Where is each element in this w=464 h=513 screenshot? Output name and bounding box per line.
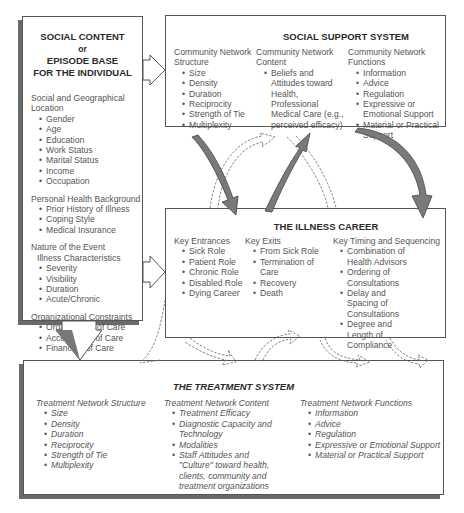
list-item: Income	[39, 166, 143, 176]
community-structure-column: Community Network Structure Size Density…	[174, 47, 254, 130]
list-item: Coping Style	[39, 214, 143, 224]
treatment-system-title: THE TREATMENT SYSTEM	[24, 381, 443, 393]
title-line: EPISODE BASE	[23, 55, 142, 67]
list-item: Duration	[39, 284, 143, 294]
list-item: Regulation	[308, 429, 445, 439]
list-item: Education	[39, 135, 143, 145]
list-item: Staff Attitudes and "Culture" toward hea…	[172, 450, 282, 492]
list-item: Material or Practical Support	[308, 450, 445, 460]
list-item: Disabled Role	[182, 278, 244, 288]
list-item: Modalities	[172, 440, 282, 450]
arrow-content-to-support-icon	[143, 55, 165, 85]
list-item: Duration	[44, 429, 166, 439]
list-item: Patient Role	[182, 257, 244, 267]
list-item: Marital Status	[39, 155, 143, 165]
list-item: Financing of Care	[39, 343, 143, 353]
section-heading: Personal Health Background	[31, 194, 143, 204]
list-item: Expressive or Emotional Support	[308, 440, 445, 450]
list-item: Delay and Spacing of Consultations	[340, 288, 418, 319]
section-heading: Nature of the Event	[31, 242, 143, 252]
list-item: Information	[356, 68, 444, 78]
key-exits-column: Key Exits From Sick Role Termination of …	[245, 236, 325, 298]
list-item: From Sick Role	[253, 246, 325, 256]
social-content-sections: Social and Geographical Location Gender …	[31, 93, 143, 360]
list-item: Information	[308, 408, 445, 418]
section-social-geographical: Social and Geographical Location Gender …	[31, 93, 143, 187]
social-support-title: SOCIAL SUPPORT SYSTEM	[246, 31, 446, 43]
list-item: Termination of Care	[253, 257, 325, 278]
list-item: Regulation	[356, 89, 444, 99]
column-heading: Community Network Content	[256, 47, 344, 68]
list-item: Strength of Tie	[182, 109, 254, 119]
list-item: Occupation	[39, 176, 143, 186]
column-heading: Key Timing and Sequencing	[333, 236, 445, 246]
column-heading: Treatment Network Structure	[36, 398, 166, 408]
list-item: Medical Insurance	[39, 225, 143, 235]
illness-career-title: THE ILLNESS CAREER	[226, 221, 426, 233]
list-item: Combination of Health Advisors	[340, 246, 418, 267]
list-item: Advice	[308, 419, 445, 429]
list-item: Density	[182, 78, 254, 88]
list-item: Sick Role	[182, 246, 244, 256]
arrow-support-to-illness-icon	[192, 135, 238, 215]
list-item: Accessibility of Care	[39, 333, 143, 343]
title-line: SOCIAL CONTENT	[23, 31, 142, 43]
list-item: Reciprocity	[182, 99, 254, 109]
column-heading: Community Network Functions	[348, 47, 444, 68]
list-item: Beliefs and Attitudes toward Health, Pro…	[264, 68, 344, 130]
list-item: Degree and Length of Compliance	[340, 319, 418, 350]
treatment-structure-column: Treatment Network Structure Size Density…	[36, 398, 166, 471]
list-item: Size	[44, 408, 166, 418]
section-heading: Organizational Constraints	[31, 312, 143, 322]
list-item: Visibility	[39, 274, 143, 284]
treatment-functions-column: Treatment Network Functions Information …	[300, 398, 445, 460]
key-timing-column: Key Timing and Sequencing Combination of…	[333, 236, 445, 350]
list-item: Chronic Role	[182, 267, 244, 277]
list-item: Size	[182, 68, 254, 78]
illness-career-box: THE ILLNESS CAREER Key Entrances Sick Ro…	[165, 208, 446, 338]
dashed-arrows-upper	[210, 133, 336, 208]
arrow-content-to-illness-icon	[143, 256, 165, 288]
social-support-box: SOCIAL SUPPORT SYSTEM Community Network …	[165, 15, 446, 127]
community-content-column: Community Network Content Beliefs and At…	[256, 47, 344, 130]
arrow-illness-to-support-icon	[265, 133, 310, 212]
list-item: Treatment Efficacy	[172, 408, 282, 418]
list-item: Prior History of Illness	[39, 204, 143, 214]
list-item: Acute/Chronic	[39, 294, 143, 304]
section-subheading: Illness Characteristics	[31, 253, 143, 263]
social-content-title: SOCIAL CONTENT or EPISODE BASE FOR THE I…	[23, 31, 142, 79]
section-heading: Social and Geographical Location	[31, 93, 143, 114]
list-item: Ordering of Consultations	[340, 267, 418, 288]
list-item: Organization of Care	[39, 322, 143, 332]
title-line: FOR THE INDIVIDUAL	[23, 67, 142, 79]
list-item: Age	[39, 124, 143, 134]
list-item: Gender	[39, 114, 143, 124]
treatment-system-box: THE TREATMENT SYSTEM Treatment Network S…	[23, 360, 444, 495]
key-entrances-column: Key Entrances Sick Role Patient Role Chr…	[174, 236, 244, 298]
section-nature-of-event: Nature of the Event Illness Characterist…	[31, 242, 143, 304]
list-item: Multiplexity	[44, 460, 166, 470]
list-item: Dying Career	[182, 288, 244, 298]
list-item: Death	[253, 288, 325, 298]
arrow-support-to-illness-right-icon	[355, 128, 432, 218]
list-item: Material or Practical Support	[356, 120, 444, 141]
column-heading: Key Entrances	[174, 236, 244, 246]
title-line: or	[23, 43, 142, 55]
list-item: Work Status	[39, 145, 143, 155]
treatment-content-column: Treatment Network Content Treatment Effi…	[164, 398, 294, 492]
column-heading: Treatment Network Content	[164, 398, 294, 408]
list-item: Multiplexity	[182, 120, 254, 130]
community-functions-column: Community Network Functions Information …	[348, 47, 444, 141]
list-item: Expressive or Emotional Support	[356, 99, 444, 120]
list-item: Recovery	[253, 278, 325, 288]
column-heading: Key Exits	[245, 236, 325, 246]
social-content-box: SOCIAL CONTENT or EPISODE BASE FOR THE I…	[22, 16, 143, 321]
list-item: Reciprocity	[44, 440, 166, 450]
list-item: Strength of Tie	[44, 450, 166, 460]
list-item: Duration	[182, 89, 254, 99]
column-heading: Treatment Network Functions	[300, 398, 445, 408]
section-organizational-constraints: Organizational Constraints Organization …	[31, 312, 143, 354]
list-item: Severity	[39, 263, 143, 273]
column-heading: Community Network Structure	[174, 47, 254, 68]
section-personal-health: Personal Health Background Prior History…	[31, 194, 143, 236]
